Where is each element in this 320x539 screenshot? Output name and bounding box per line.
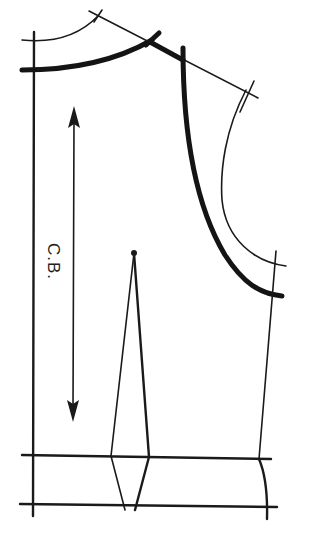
grainline-arrow xyxy=(73,118,74,412)
center-back-label: C.B. xyxy=(43,243,63,273)
shoulder-bold-segment xyxy=(150,42,183,60)
back-neckline-adjusted xyxy=(22,40,152,70)
hip-line xyxy=(20,504,277,507)
armhole-original xyxy=(222,90,286,266)
waist-dart xyxy=(111,253,134,510)
waist-line xyxy=(22,455,271,459)
center-back-line xyxy=(33,32,34,516)
side-seam-hip-curve xyxy=(259,459,267,519)
side-seam xyxy=(259,251,276,459)
waist-dart-right-leg xyxy=(134,253,149,510)
